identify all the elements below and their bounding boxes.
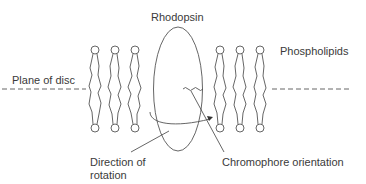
phospholipid — [108, 46, 121, 132]
direction-of-rotation-label-line2: rotation — [90, 169, 127, 182]
phospholipid — [233, 46, 246, 132]
rotation-arrow-arc — [150, 112, 210, 124]
direction-of-rotation-label-line1: Direction of — [90, 156, 146, 169]
rhodopsin-ellipse — [154, 27, 203, 151]
chromophore-orientation-label: Chromophore orientation — [222, 156, 344, 169]
rotation-leader-line — [131, 131, 169, 152]
phospholipid-group-left — [89, 46, 141, 132]
phospholipid-group-right — [214, 46, 266, 132]
rotation-arrowhead — [207, 116, 213, 121]
phospholipids-label: Phospholipids — [280, 45, 349, 58]
chromophore-leader-line — [191, 91, 224, 152]
rhodopsin-label: Rhodopsin — [151, 11, 204, 24]
phospholipid — [254, 46, 266, 132]
chromophore-squiggle — [183, 88, 203, 91]
phospholipid — [128, 46, 141, 132]
phospholipid — [214, 46, 226, 132]
plane-of-disc-label: Plane of disc — [12, 74, 75, 87]
phospholipid — [89, 46, 101, 132]
